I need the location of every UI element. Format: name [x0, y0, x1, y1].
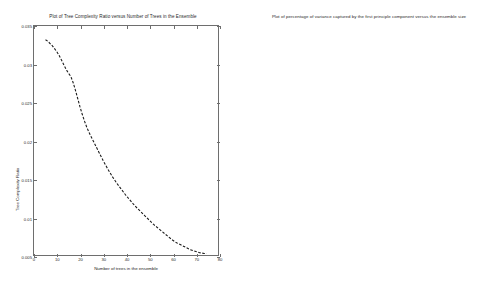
x-tick-label: 30 — [101, 257, 106, 262]
y-tick-label: 0.015 — [22, 178, 32, 183]
plot-area-left: 01020304050607080 0.0050.010.0150.020.02… — [33, 25, 219, 256]
y-axis-title-left: Tree Complexity Ratio — [15, 168, 20, 211]
x-tick-label: 50 — [148, 257, 153, 262]
chart-title-left: Plot of Tree Complexity Ratio versus Num… — [0, 14, 246, 20]
data-series-tree-complexity — [34, 26, 218, 255]
x-tick-label: 10 — [55, 257, 60, 262]
x-tick-label: 20 — [78, 257, 83, 262]
x-axis-title-left: Number of trees in the ensemble — [94, 266, 158, 271]
y-tick-label: 0.01 — [24, 216, 32, 221]
figure-canvas: Plot of Tree Complexity Ratio versus Num… — [0, 0, 492, 286]
x-tick-label: 40 — [125, 257, 130, 262]
chart-tree-complexity-ratio: Plot of Tree Complexity Ratio versus Num… — [0, 0, 246, 286]
y-tick-label: 0.005 — [22, 255, 32, 260]
x-tick-label: 0 — [33, 257, 35, 262]
y-tick-label: 0.025 — [22, 101, 32, 106]
x-tick-label: 80 — [218, 257, 223, 262]
y-tick-label: 0.02 — [24, 139, 32, 144]
chart-title-right: Plot of percentage of variance captured … — [246, 14, 492, 20]
y-tick-label: 0.035 — [22, 24, 32, 29]
x-tick-label: 60 — [171, 257, 176, 262]
x-tick-label: 70 — [194, 257, 199, 262]
y-tick-label: 0.03 — [24, 62, 32, 67]
chart-variance-captured: Plot of percentage of variance captured … — [246, 0, 492, 286]
